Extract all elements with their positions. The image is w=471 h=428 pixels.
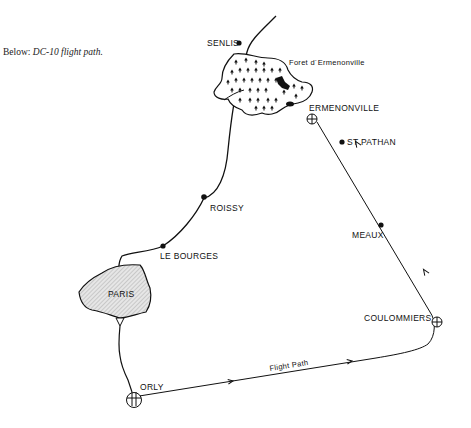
route-arrow-2: [347, 359, 353, 364]
ermenonville-marker-icon: [307, 114, 317, 124]
label-coulommiers: COULOMMIERS: [364, 313, 432, 323]
roissy-dot: [201, 194, 207, 200]
flight-path-map: SENLIS Foret d´Ermenonville ERMENONVILLE…: [0, 0, 471, 428]
le-bourges-dot: [160, 243, 165, 248]
label-le-bourges: LE BOURGES: [160, 251, 218, 261]
st-pathan-dot: [339, 139, 344, 144]
label-meaux: MEAUX: [352, 230, 384, 240]
label-ermenonville: ERMENONVILLE: [309, 103, 379, 113]
orly-airport-icon: [127, 392, 142, 408]
route-arrow-3: [422, 268, 429, 276]
label-orly: ORLY: [140, 382, 164, 392]
label-forest: Foret d´Ermenonville: [289, 58, 365, 67]
meaux-dot: [378, 222, 383, 227]
coulommiers-marker-icon: [432, 317, 442, 327]
label-roissy: ROISSY: [210, 203, 244, 213]
paris-area: [79, 265, 151, 392]
label-st-pathan: ST PATHAN: [347, 137, 396, 147]
label-senlis: SENLIS: [207, 38, 239, 48]
label-flight-path: Flight Path: [269, 358, 309, 373]
label-paris: PARIS: [108, 289, 134, 299]
